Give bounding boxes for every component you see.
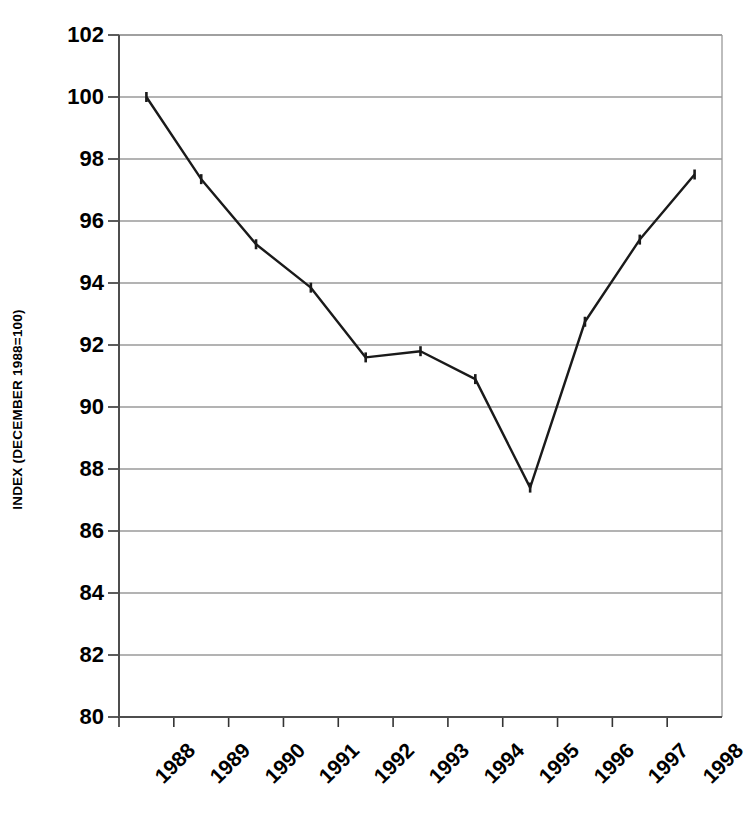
gridlines <box>108 35 722 717</box>
data-series-line <box>146 97 694 488</box>
axis-frame <box>119 35 722 717</box>
x-axis-ticks <box>119 717 667 727</box>
data-point-markers <box>146 92 694 493</box>
